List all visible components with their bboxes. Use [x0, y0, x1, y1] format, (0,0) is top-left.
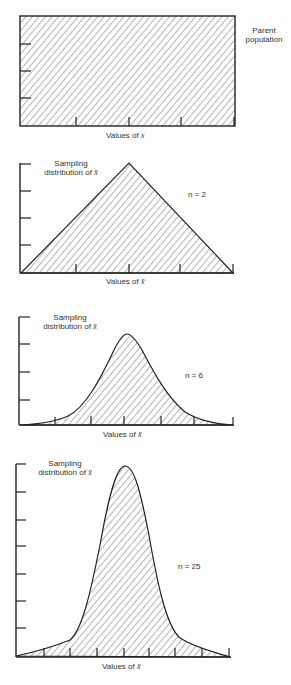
n-label-n2: n = 2: [188, 190, 206, 199]
chart-title-n2: Sampling distribution of x̄: [36, 159, 106, 177]
n-label-n6: n = 6: [185, 371, 203, 380]
chart-title-n6: Sampling distribution of x̄: [35, 313, 105, 331]
x-axis-label-n25: Values of x̄: [102, 662, 141, 671]
parent-population-label: Parent population: [240, 26, 288, 44]
chart-title-n25: Sampling distribution of x̄: [30, 459, 100, 477]
n-label-n25: n = 25: [178, 562, 200, 571]
figure-canvas: [0, 0, 291, 685]
parent-population-chart: [20, 16, 235, 126]
sampling-n2-chart: [20, 163, 234, 273]
x-axis-label-n6: Values of x̄: [103, 430, 142, 439]
x-axis-label-n2: Values of x̄: [106, 277, 145, 286]
sampling-n25-chart: [16, 464, 231, 657]
x-axis-label-parent: Values of x: [106, 131, 145, 140]
